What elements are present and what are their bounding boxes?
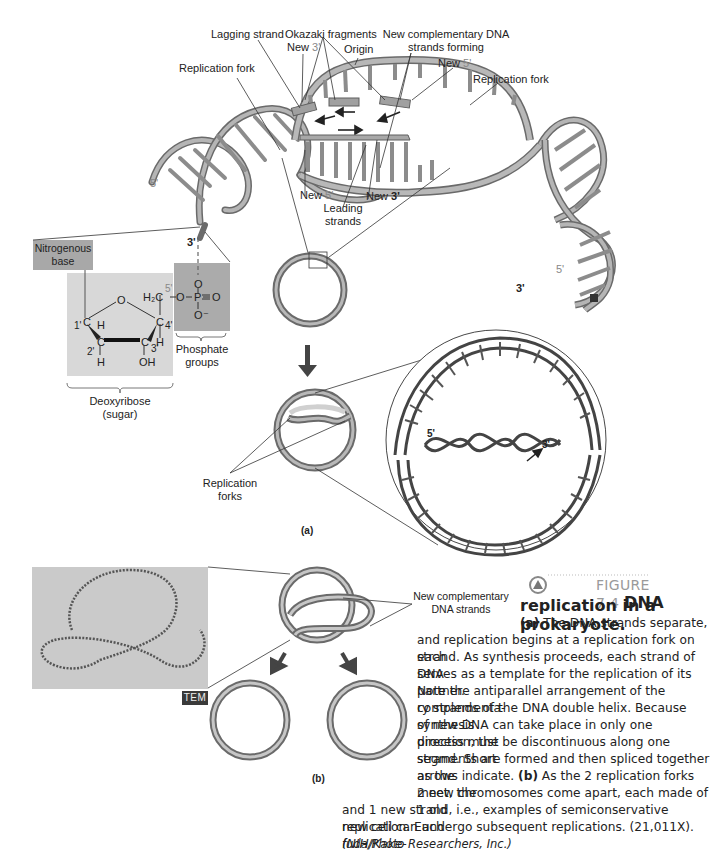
- label-nitrogenous-line2: base: [33, 255, 93, 268]
- label-prime: 3': [391, 190, 400, 202]
- label-phosphate-line2: groups: [172, 356, 232, 369]
- atom-o-link: O: [176, 291, 185, 304]
- label-lagging-strand: Lagging strand: [211, 28, 284, 41]
- atom-h4: H: [156, 336, 164, 349]
- label-nitrogenous-line1: Nitrogenous: [33, 242, 93, 255]
- label-phosphate-line1: Phosphate: [172, 343, 232, 356]
- atom-h2: H: [97, 356, 105, 369]
- label-new-5-bottom: New 5': [300, 189, 333, 202]
- atom-c3: C: [141, 336, 149, 349]
- label-new-complementary-forming: New complementary DNA strands forming: [376, 28, 516, 54]
- label-leading-line2: strands: [318, 215, 368, 228]
- atom-c2-num: 2': [87, 345, 94, 358]
- label-new-comp-line2: DNA strands: [413, 603, 509, 616]
- label-prime: 3': [312, 41, 320, 53]
- tem-micrograph: [32, 567, 208, 689]
- label-forks-line1: Replication: [198, 477, 262, 490]
- caption-text: new cell can undergo subsequent replicat…: [342, 820, 694, 834]
- atom-h2c: H₂C: [143, 291, 163, 304]
- label-deoxyribose-line1: Deoxyribose: [80, 395, 160, 408]
- label-new-text: New: [438, 57, 460, 69]
- label-panel-a: (a): [301, 524, 313, 537]
- atom-o-minus: O⁻: [194, 309, 209, 322]
- atom-c4-num: 4': [165, 319, 172, 332]
- atom-p: P: [194, 291, 201, 304]
- caption-text: arrows indicate.: [417, 769, 518, 783]
- label-new-text: New: [287, 41, 309, 53]
- atom-c2: C: [97, 336, 105, 349]
- chromosome-circle-2: [277, 392, 353, 468]
- label-new-3-top: New 3': [287, 41, 320, 54]
- label-deoxyribose-line2: (sugar): [80, 408, 160, 421]
- chromosome-circle-1: [276, 252, 344, 324]
- label-new-5-top: New 5': [438, 57, 471, 70]
- atom-oh: OH: [139, 356, 156, 369]
- label-leading-line1: Leading: [318, 202, 368, 215]
- label-deoxyribose: Deoxyribose (sugar): [80, 395, 160, 421]
- label-new-complementary-strands: New complementary DNA strands: [413, 590, 509, 616]
- label-origin: Origin: [344, 43, 373, 56]
- atom-c1-num: 1': [74, 319, 81, 332]
- label-replication-fork-right: Replication fork: [473, 73, 549, 86]
- label-new-complementary-forming-line1: New complementary DNA: [376, 28, 516, 41]
- down-arrow: [298, 345, 317, 377]
- label-left-5-prime: 5': [150, 177, 158, 190]
- caption-text: The DNA strands separate,: [539, 616, 707, 630]
- caption-a-marker: (a): [520, 616, 539, 630]
- label-replication-fork-left: Replication fork: [179, 62, 255, 75]
- label-nitrogenous-base: Nitrogenous base: [33, 242, 93, 268]
- caption-b-marker: (b): [518, 769, 538, 783]
- label-right-3-prime: 3': [516, 282, 525, 295]
- right-helix: [540, 120, 612, 310]
- atom-h1: H: [97, 319, 105, 332]
- atom-c4: C: [156, 316, 164, 329]
- figure-icon: [530, 577, 546, 593]
- atom-o-top: O: [194, 278, 203, 291]
- caption-line-14: fuda/Photo Researchers, Inc.): [342, 836, 512, 853]
- label-okazaki-fragments: Okazaki fragments: [285, 28, 377, 41]
- label-inset-3-prime: 3': [542, 438, 550, 451]
- label-new-3-bottom: New 3': [366, 190, 400, 203]
- atom-c5-num: 5': [165, 282, 172, 295]
- label-replication-forks: Replication forks: [198, 477, 262, 503]
- caption-line-1: (a) The DNA strands separate,: [520, 615, 707, 632]
- magnified-inset: [386, 330, 606, 555]
- tem-badge: TEM: [182, 691, 208, 705]
- label-new-complementary-forming-line2: strands forming: [376, 41, 516, 54]
- atom-o-double: O: [212, 291, 221, 304]
- label-new-text: New: [300, 189, 322, 201]
- label-prime: 5': [463, 57, 471, 69]
- panel-b-rings: [213, 570, 404, 757]
- label-inset-5-prime: 5': [427, 427, 435, 440]
- label-phosphate-groups: Phosphate groups: [172, 343, 232, 369]
- label-panel-b: (b): [312, 772, 325, 785]
- label-prime: 5': [325, 189, 333, 201]
- atom-o-ring: O: [117, 294, 126, 307]
- label-right-5-prime: 5': [556, 263, 564, 276]
- label-leading-strands: Leading strands: [318, 202, 368, 228]
- label-new-text: New: [366, 190, 388, 202]
- atom-c1: C: [83, 316, 91, 329]
- label-left-3-prime: 3': [187, 236, 196, 249]
- label-forks-line2: forks: [198, 490, 262, 503]
- split-arrows: [272, 653, 355, 672]
- label-new-comp-line1: New complementary: [413, 590, 509, 603]
